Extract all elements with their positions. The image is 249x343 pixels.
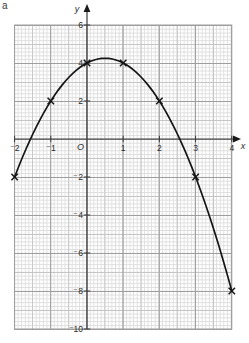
plotted-points	[11, 60, 235, 294]
y-tick-label: ⁻10	[69, 324, 84, 334]
x-tick-label: ⁻1	[46, 143, 56, 153]
tick-labels: 642⁻2⁻4⁻6⁻8⁻10⁻2⁻11234	[10, 20, 235, 334]
x-tick-label: ⁻2	[10, 143, 20, 153]
graph-svg: y x O 642⁻2⁻4⁻6⁻8⁻10⁻2⁻11234	[0, 0, 249, 343]
y-tick-label: 6	[78, 20, 83, 30]
grid-border	[15, 25, 232, 329]
y-tick-label: 2	[78, 96, 83, 106]
x-tick-label: 2	[157, 143, 162, 153]
x-tick-label: 1	[121, 143, 126, 153]
parabola-curve	[15, 58, 232, 291]
x-axis-label: x	[240, 141, 246, 151]
y-tick-label: ⁻2	[73, 172, 83, 182]
y-axis-arrow-icon	[84, 4, 91, 12]
y-tick-label: ⁻8	[73, 286, 83, 296]
y-tick-label: ⁻6	[73, 248, 83, 258]
x-tick-label: 3	[193, 143, 198, 153]
graph-panel: a y x O 642⁻2⁻4⁻6⁻8⁻10⁻2⁻11234	[0, 0, 249, 343]
origin-label: O	[77, 142, 84, 152]
y-axis-label: y	[74, 4, 80, 14]
axis-ticks	[15, 25, 232, 329]
y-tick-label: ⁻4	[73, 210, 83, 220]
x-tick-label: 4	[229, 143, 234, 153]
